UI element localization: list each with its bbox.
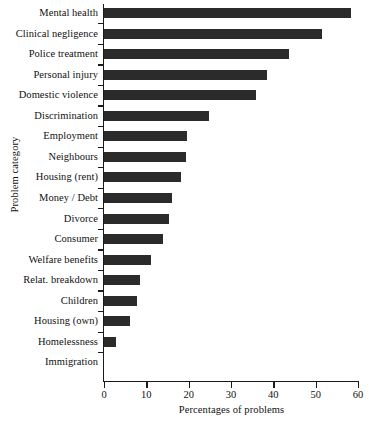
- x-axis-tick-label: 40: [253, 389, 293, 400]
- plot-area: Mental healthClinical negligencePolice t…: [0, 0, 369, 427]
- category-label: Personal injury: [0, 69, 98, 80]
- x-axis-tick: [189, 382, 190, 388]
- bar: [104, 90, 256, 100]
- category-label: Relat. breakdown: [0, 274, 98, 285]
- bar: [104, 316, 130, 326]
- x-axis-tick-label: 0: [84, 389, 124, 400]
- bar: [104, 70, 267, 80]
- y-axis-tick: [98, 249, 104, 250]
- bar: [104, 337, 116, 347]
- y-axis-tick: [98, 229, 104, 230]
- bar: [104, 275, 140, 285]
- bar: [104, 49, 289, 59]
- y-axis-tick: [98, 147, 104, 148]
- y-axis-tick: [98, 290, 104, 291]
- y-axis-tick: [98, 208, 104, 209]
- bar: [104, 29, 322, 39]
- category-label: Employment: [0, 130, 98, 141]
- y-axis-tick: [98, 105, 104, 106]
- x-axis-tick: [146, 382, 147, 388]
- category-label: Consumer: [0, 233, 98, 244]
- y-axis-tick: [98, 64, 104, 65]
- bar: [104, 111, 209, 121]
- bar: [104, 8, 351, 18]
- x-axis-tick-label: 30: [211, 389, 251, 400]
- y-axis-tick: [98, 85, 104, 86]
- x-axis-tick: [273, 382, 274, 388]
- category-label: Clinical negligence: [0, 28, 98, 39]
- category-label: Discrimination: [0, 110, 98, 121]
- x-axis-tick: [358, 382, 359, 388]
- x-axis-tick-label: 10: [126, 389, 166, 400]
- bar: [104, 193, 172, 203]
- x-axis-tick: [316, 382, 317, 388]
- bar: [104, 296, 137, 306]
- x-axis-tick: [231, 382, 232, 388]
- x-axis-tick: [104, 382, 105, 388]
- bar: [104, 214, 169, 224]
- category-label: Divorce: [0, 213, 98, 224]
- y-axis-tick: [98, 188, 104, 189]
- x-axis-tick-label: 20: [169, 389, 209, 400]
- category-label: Police treatment: [0, 48, 98, 59]
- bar: [104, 255, 151, 265]
- bar: [104, 172, 181, 182]
- y-axis-tick: [98, 167, 104, 168]
- y-axis-tick: [98, 44, 104, 45]
- y-axis-tick: [98, 311, 104, 312]
- x-axis-tick-label: 60: [338, 389, 369, 400]
- y-axis-tick: [98, 23, 104, 24]
- bar: [104, 234, 163, 244]
- category-label: Housing (rent): [0, 171, 98, 182]
- x-axis-title: Percentages of problems: [104, 404, 359, 415]
- category-label: Domestic violence: [0, 89, 98, 100]
- category-label: Homelessness: [0, 336, 98, 347]
- category-label: Children: [0, 295, 98, 306]
- bar-chart: Problem category Mental healthClinical n…: [0, 0, 369, 427]
- y-axis-tick: [98, 270, 104, 271]
- x-axis-tick-label: 50: [296, 389, 336, 400]
- bar: [104, 131, 187, 141]
- category-label: Welfare benefits: [0, 254, 98, 265]
- y-axis-tick: [98, 352, 104, 353]
- category-label: Housing (own): [0, 315, 98, 326]
- y-axis-tick: [98, 126, 104, 127]
- category-label: Neighbours: [0, 151, 98, 162]
- category-label: Mental health: [0, 7, 98, 18]
- y-axis-tick: [98, 332, 104, 333]
- category-label: Immigration: [0, 356, 98, 367]
- bar: [104, 152, 186, 162]
- category-label: Money / Debt: [0, 192, 98, 203]
